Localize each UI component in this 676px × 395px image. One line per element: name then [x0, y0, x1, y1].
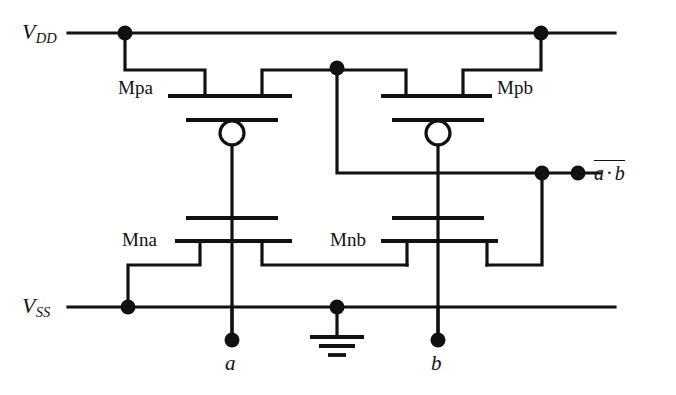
mpb-label: Mpb	[497, 78, 533, 97]
junction-dot-output-net	[535, 166, 550, 181]
output-to-mnb-drain-wire	[487, 173, 542, 265]
terminal-dot-input-a	[225, 333, 240, 348]
vdd-label-v: V	[22, 19, 35, 44]
circuit-schematic-canvas	[0, 0, 676, 395]
junction-dot-output-terminal	[571, 166, 586, 181]
output-label: a·b	[594, 160, 625, 183]
output-label-a: a	[594, 162, 604, 184]
input-a-label: a	[225, 353, 236, 374]
mpb-inversion-bubble-icon	[426, 121, 450, 145]
input-b-label: b	[431, 353, 442, 374]
output-label-dot: ·	[604, 162, 615, 184]
output-label-b: b	[615, 162, 625, 184]
vdd-label-sub: DD	[36, 30, 57, 46]
mna-source-wire	[128, 241, 200, 307]
mpb-drain-wire	[337, 70, 406, 95]
mnb-label: Mnb	[330, 230, 366, 249]
mpa-drain-wire	[262, 70, 337, 95]
vss-label-sub: SS	[36, 304, 51, 320]
output-label-overbar: a·b	[594, 160, 625, 183]
mpa-inversion-bubble-icon	[220, 121, 244, 145]
junction-dot-ground	[330, 300, 345, 315]
junction-dot-pmos-drains	[330, 61, 345, 76]
junction-dot-vdd-right	[534, 26, 549, 41]
terminal-dot-input-b	[431, 333, 446, 348]
vdd-label: VDD	[22, 21, 56, 43]
mna-label: Mna	[122, 230, 157, 249]
junction-dot-vdd-left	[118, 26, 133, 41]
vss-label-v: V	[22, 293, 35, 318]
junction-dot-vss-left	[121, 300, 136, 315]
mpa-label: Mpa	[118, 78, 153, 97]
vss-label: VSS	[22, 295, 50, 317]
